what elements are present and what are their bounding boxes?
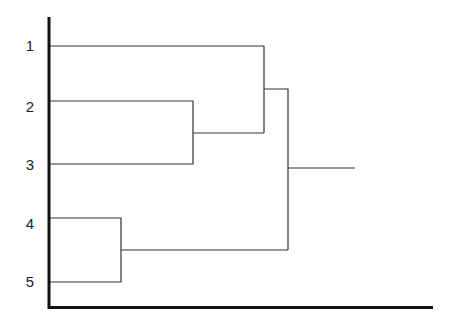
link-leaf-2 [50, 101, 193, 164]
leaf-label-4: 4 [20, 216, 40, 232]
leaf-label-1: 1 [20, 38, 40, 54]
leaf-label-5: 5 [20, 274, 40, 290]
link-leaf-4-5 [50, 218, 121, 282]
leaf-label-3: 3 [20, 157, 40, 173]
dendrogram-links [50, 46, 355, 282]
leaf-label-2: 2 [20, 99, 40, 115]
link-leaf-1 [50, 46, 264, 133]
dendrogram [0, 0, 457, 326]
link-cluster-1-2-3 [264, 89, 288, 250]
